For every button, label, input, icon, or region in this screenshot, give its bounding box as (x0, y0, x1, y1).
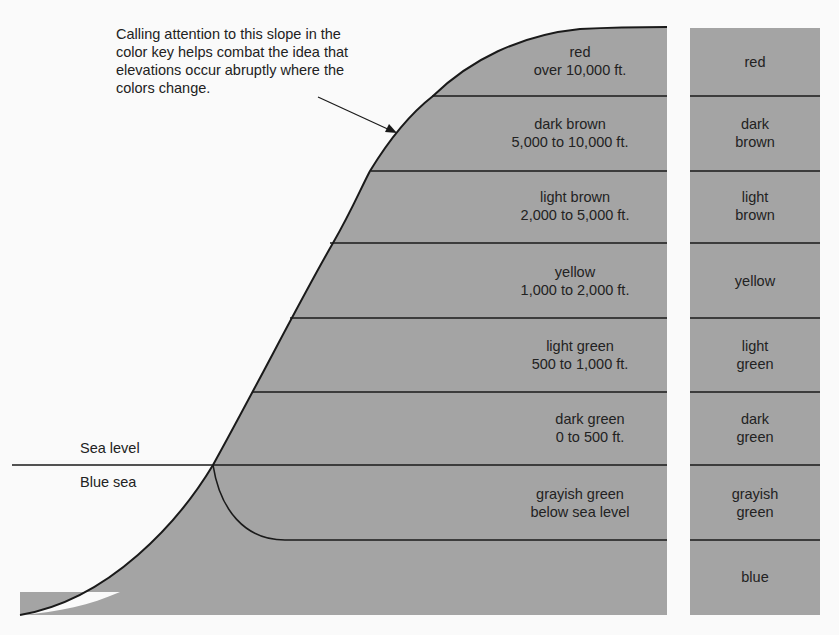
key-light-brown: lightbrown (690, 188, 820, 224)
key-red: red (690, 53, 820, 71)
key-dark-brown: darkbrown (690, 115, 820, 151)
annotation-text: Calling attention to this slope in the c… (116, 25, 416, 97)
band-label-light-brown: light brown2,000 to 5,000 ft. (470, 188, 680, 224)
band-label-dark-brown: dark brown5,000 to 10,000 ft. (460, 115, 680, 151)
key-grayish-green: grayishgreen (690, 485, 820, 521)
band-label-dark-green: dark green0 to 500 ft. (500, 410, 680, 446)
key-yellow: yellow (690, 272, 820, 290)
key-light-green: lightgreen (690, 337, 820, 373)
band-label-red: redover 10,000 ft. (480, 43, 680, 79)
band-label-yellow: yellow1,000 to 2,000 ft. (470, 263, 680, 299)
arrow-icon (318, 97, 397, 133)
blue-sea-label: Blue sea (80, 474, 136, 490)
sea-level-label: Sea level (80, 440, 140, 456)
band-label-grayish-green: grayish greenbelow sea level (480, 485, 680, 521)
key-blue: blue (690, 568, 820, 586)
band-label-light-green: light green500 to 1,000 ft. (480, 337, 680, 373)
key-dark-green: darkgreen (690, 410, 820, 446)
